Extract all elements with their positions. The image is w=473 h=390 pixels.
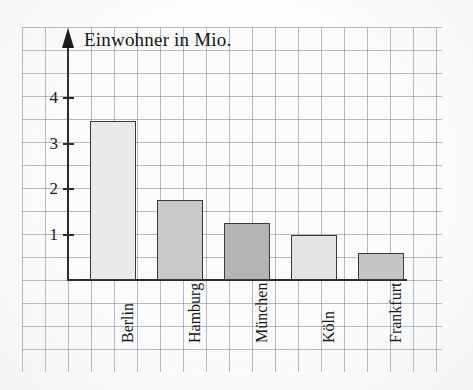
bar-frankfurt bbox=[358, 253, 404, 280]
y-tick-label: 4 bbox=[36, 89, 58, 106]
arrow-up-icon bbox=[62, 28, 74, 48]
chart-title: Einwohner in Mio. bbox=[84, 29, 231, 50]
plot-area: Einwohner in Mio. 4321 BerlinHamburgMünc… bbox=[0, 0, 473, 390]
bar-köln bbox=[291, 235, 337, 281]
bar-label-köln: Köln bbox=[321, 311, 337, 343]
bar-label-münchen: München bbox=[254, 283, 270, 343]
y-tick-mark bbox=[63, 97, 74, 99]
bar-hamburg bbox=[157, 200, 203, 280]
bar-berlin bbox=[90, 121, 136, 280]
y-axis bbox=[67, 46, 69, 281]
y-tick-mark bbox=[63, 234, 74, 236]
y-tick-mark bbox=[63, 143, 74, 145]
bar-label-berlin: Berlin bbox=[120, 303, 136, 343]
y-tick-label: 2 bbox=[36, 180, 58, 197]
chart-figure: Einwohner in Mio. 4321 BerlinHamburgMünc… bbox=[0, 0, 473, 390]
bar-label-hamburg: Hamburg bbox=[187, 283, 203, 343]
y-tick-label: 1 bbox=[36, 226, 58, 243]
y-tick-mark bbox=[63, 188, 74, 190]
bar-münchen bbox=[224, 223, 270, 280]
bar-label-frankfurt: Frankfurt bbox=[388, 283, 404, 343]
y-tick-label: 3 bbox=[36, 135, 58, 152]
